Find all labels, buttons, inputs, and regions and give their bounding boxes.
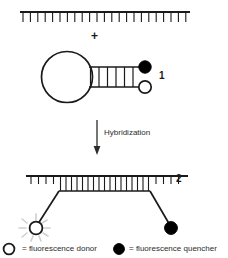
hybrid-duplex [19, 176, 188, 241]
hybridization-arrow [94, 120, 101, 155]
target-strand [20, 12, 190, 22]
hairpin-stem-rungs [99, 67, 133, 87]
figure-container: + Hybridization 1 2 = fluorescence donor… [0, 0, 228, 258]
hybridization-label: Hybridization [104, 129, 150, 137]
hairpin-quencher-dot [139, 61, 151, 73]
duplex-paired-rungs [61, 176, 149, 191]
duplex-quencher-arm [150, 191, 171, 227]
hairpin-loop-circle [42, 52, 93, 103]
structure-label-2: 2 [176, 174, 182, 184]
legend-quencher-marker-icon [114, 244, 125, 255]
duplex-quencher-dot [165, 222, 178, 235]
legend-donor-text: = fluorescence donor [22, 245, 97, 253]
plus-sign: + [91, 30, 98, 42]
beacon-hairpin [42, 52, 152, 103]
duplex-left-free-ticks [31, 176, 54, 184]
duplex-donor-dot [30, 222, 43, 235]
legend-quencher-text: = fluorescence quencher [129, 245, 217, 253]
legend-donor-marker-icon [4, 244, 15, 255]
hairpin-donor-dot [139, 81, 151, 93]
structure-label-1: 1 [159, 71, 165, 81]
